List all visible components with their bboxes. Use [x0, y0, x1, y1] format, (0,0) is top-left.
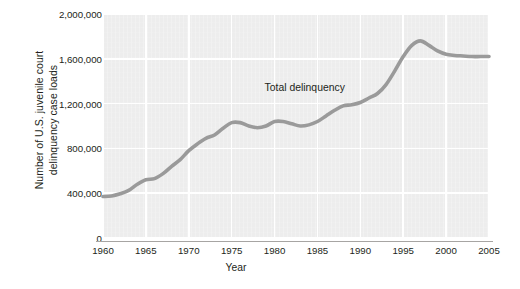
- x-tick-label: 1985: [307, 245, 329, 256]
- annotation-total-delinquency: Total delinquency: [265, 82, 345, 93]
- x-tick-label: 1990: [350, 245, 372, 256]
- chart-figure: Number of U.S. juvenile court delinquenc…: [0, 0, 520, 289]
- x-tick-label: 1970: [178, 245, 200, 256]
- x-axis-tick-labels: 1960196519701975198019851990199520002005: [0, 245, 520, 261]
- y-tick-label: 0: [40, 233, 102, 244]
- line-series-total-delinquency: [103, 41, 489, 197]
- y-tick-label: 800,000: [40, 143, 102, 154]
- y-tick-label: 2,000,000: [40, 9, 102, 20]
- x-tick-label: 1960: [92, 245, 114, 256]
- x-axis-title-text: Year: [226, 262, 247, 273]
- x-tick-label: 1995: [392, 245, 414, 256]
- y-tick-label: 1,600,000: [40, 53, 102, 64]
- x-axis-title: Year: [0, 262, 520, 273]
- x-tick-label: 2000: [435, 245, 457, 256]
- y-tick-label: 400,000: [40, 188, 102, 199]
- plot-area: Total delinquency: [103, 14, 489, 238]
- x-tick-label: 2005: [478, 245, 500, 256]
- y-axis-tick-labels: 0400,000800,0001,200,0001,600,0002,000,0…: [40, 0, 102, 250]
- x-tick-label: 1975: [221, 245, 243, 256]
- x-axis-line: [96, 241, 493, 242]
- x-tick-label: 1965: [135, 245, 157, 256]
- x-tick-label: 1980: [264, 245, 286, 256]
- data-series-layer: [103, 14, 489, 238]
- y-tick-label: 1,200,000: [40, 98, 102, 109]
